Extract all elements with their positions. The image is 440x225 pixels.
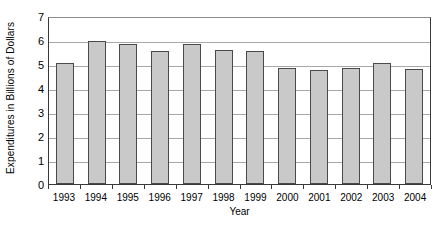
x-tick-mark xyxy=(112,185,113,189)
bar-slot xyxy=(208,18,240,184)
bar-series xyxy=(49,18,430,184)
bar[interactable] xyxy=(183,44,201,184)
bar-slot xyxy=(335,18,367,184)
y-tick-label: 3 xyxy=(22,108,44,119)
y-tick-label: 2 xyxy=(22,132,44,143)
bar[interactable] xyxy=(373,63,391,184)
x-tick-mark xyxy=(80,185,81,189)
x-tick-mark xyxy=(144,185,145,189)
bar-slot xyxy=(113,18,145,184)
x-tick-mark xyxy=(399,185,400,189)
x-tick-label: 1996 xyxy=(144,190,176,206)
bar[interactable] xyxy=(88,41,106,184)
y-axis-tick-labels: 01234567 xyxy=(22,0,44,196)
x-tick-label: 2004 xyxy=(399,190,431,206)
bar-slot xyxy=(303,18,335,184)
y-tick-label: 1 xyxy=(22,156,44,167)
x-tick-label: 2003 xyxy=(367,190,399,206)
y-tick-label: 6 xyxy=(22,36,44,47)
bar-slot xyxy=(81,18,113,184)
y-tick-label: 5 xyxy=(22,60,44,71)
x-tick-label: 1993 xyxy=(48,190,80,206)
x-tick-mark xyxy=(48,185,49,189)
x-tick-mark xyxy=(335,185,336,189)
x-tick-label: 1994 xyxy=(80,190,112,206)
bar[interactable] xyxy=(56,63,74,184)
x-tick-label: 1997 xyxy=(176,190,208,206)
x-axis-title: Year xyxy=(48,206,431,217)
bar[interactable] xyxy=(278,68,296,184)
bar-slot xyxy=(144,18,176,184)
x-tick-mark xyxy=(431,185,432,189)
x-tick-label: 1995 xyxy=(112,190,144,206)
x-tick-label: 1999 xyxy=(240,190,272,206)
x-tick-label: 2001 xyxy=(303,190,335,206)
bar[interactable] xyxy=(246,51,264,184)
y-tick-label: 7 xyxy=(22,12,44,23)
bar[interactable] xyxy=(215,50,233,184)
bar[interactable] xyxy=(119,44,137,184)
y-axis-title: Expenditures in Billions of Dollars xyxy=(0,0,20,196)
x-tick-label: 2000 xyxy=(271,190,303,206)
bar-slot xyxy=(176,18,208,184)
x-tick-mark xyxy=(208,185,209,189)
x-tick-mark xyxy=(176,185,177,189)
bar-slot xyxy=(240,18,272,184)
bar[interactable] xyxy=(342,68,360,184)
plot-area xyxy=(48,17,431,185)
x-tick-label: 2002 xyxy=(335,190,367,206)
bar[interactable] xyxy=(310,70,328,184)
y-axis-title-text: Expenditures in Billions of Dollars xyxy=(5,22,16,174)
bar[interactable] xyxy=(405,69,423,184)
y-tick-label: 4 xyxy=(22,84,44,95)
x-tick-mark xyxy=(303,185,304,189)
x-tick-mark xyxy=(271,185,272,189)
bar-slot xyxy=(367,18,399,184)
bar-chart: Expenditures in Billions of Dollars 0123… xyxy=(0,0,440,225)
x-tick-mark xyxy=(240,185,241,189)
x-axis-tick-labels: 1993199419951996199719981999200020012002… xyxy=(48,190,431,206)
bar-slot xyxy=(271,18,303,184)
x-tick-mark xyxy=(367,185,368,189)
x-tick-label: 1998 xyxy=(208,190,240,206)
bar-slot xyxy=(398,18,430,184)
y-tick-label: 0 xyxy=(22,180,44,191)
bar[interactable] xyxy=(151,51,169,184)
bar-slot xyxy=(49,18,81,184)
